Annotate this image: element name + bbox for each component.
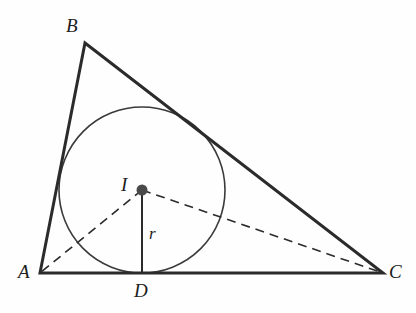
diagram-canvas: [0, 0, 416, 313]
geometry-figure: A B C D I r: [0, 0, 416, 313]
vertex-label-a: A: [18, 262, 30, 281]
incenter-point-marker: [137, 185, 148, 196]
radius-label-r: r: [149, 225, 156, 242]
vertex-label-b: B: [66, 16, 78, 35]
point-label-d: D: [134, 281, 148, 300]
incenter-label-i: I: [121, 175, 127, 194]
vertex-label-c: C: [389, 262, 402, 281]
